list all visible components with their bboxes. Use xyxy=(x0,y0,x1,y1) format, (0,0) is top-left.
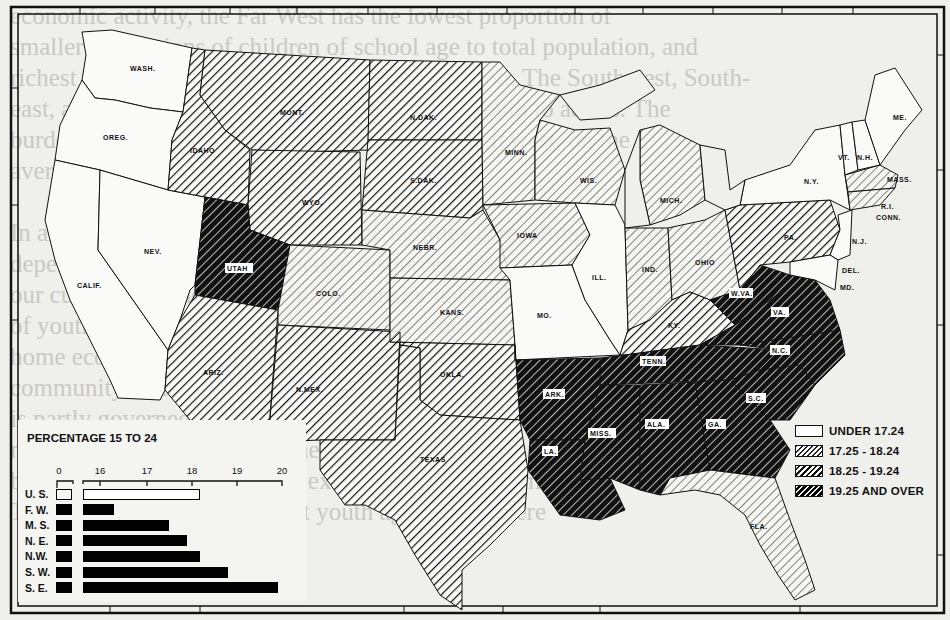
bar-category-label: N.W. xyxy=(25,550,57,562)
bar-stub xyxy=(56,582,72,593)
axis-tick-0: 0 xyxy=(56,465,61,476)
bar-category-label: U. S. xyxy=(25,488,57,500)
bar-stub xyxy=(56,551,72,562)
bar-category-label: F. W. xyxy=(25,504,57,516)
bar xyxy=(83,520,169,531)
bar-stub xyxy=(56,489,72,500)
axis-tick-20: 20 xyxy=(277,465,288,476)
bar xyxy=(83,567,228,578)
bar xyxy=(83,582,278,593)
bar-category-label: M. S. xyxy=(25,519,57,531)
bar-category-label: S. W. xyxy=(25,566,57,578)
bar xyxy=(83,504,114,515)
bar-stub xyxy=(56,520,72,531)
bar xyxy=(83,535,187,546)
bar-stub xyxy=(56,504,72,515)
axis-tick-19: 19 xyxy=(232,465,243,476)
axis-tick-17: 17 xyxy=(142,465,153,476)
bar-stub xyxy=(56,535,72,546)
bar-category-label: N. E. xyxy=(25,535,57,547)
bar xyxy=(83,489,200,500)
bar-stub xyxy=(56,567,72,578)
bar xyxy=(83,551,200,562)
axis-tick-16: 16 xyxy=(95,465,106,476)
bar-category-label: S. E. xyxy=(25,582,57,594)
axis-tick-18: 18 xyxy=(187,465,198,476)
